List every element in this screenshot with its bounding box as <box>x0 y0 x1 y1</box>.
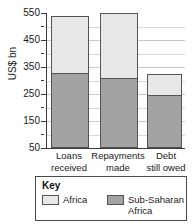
bar-segment-sub-saharan-africa <box>51 73 89 148</box>
legend-swatch-africa <box>42 195 59 205</box>
legend-title: Key <box>42 180 60 191</box>
bar-segment-sub-saharan-africa <box>100 78 138 148</box>
plot-area <box>46 13 185 148</box>
chart-legend: Key Africa Sub-Saharan Africa <box>35 176 187 221</box>
y-tick-mark-minor <box>41 107 44 108</box>
bar-repayments-made <box>100 13 138 148</box>
stacked-bar-chart: US$ bn 550 450 350 250 150 50 <box>0 0 195 224</box>
x-tick-label-repayments-made: Repayments made <box>89 150 147 173</box>
x-axis-baseline <box>46 148 185 150</box>
y-tick-mark-minor <box>41 26 44 27</box>
bar-segment-africa <box>51 16 89 73</box>
y-tick-label: 250 <box>14 89 40 99</box>
x-axis-tick-labels: Loans received Repayments made Debt stil… <box>46 150 185 176</box>
bar-debt-still-owed <box>147 74 182 148</box>
y-tick-mark-minor <box>41 134 44 135</box>
legend-label-sub-saharan-africa-line2: Africa <box>128 205 152 216</box>
x-tick-label-debt-still-owed: Debt still owed <box>142 150 190 173</box>
bar-segment-sub-saharan-africa <box>147 95 182 148</box>
y-tick-label: 550 <box>14 8 40 18</box>
bar-segment-africa <box>147 74 182 95</box>
y-axis-tick-labels: 550 450 350 250 150 50 <box>14 0 40 160</box>
legend-label-africa: Africa <box>63 194 87 205</box>
y-tick-label: 450 <box>14 35 40 45</box>
legend-swatch-sub-saharan-africa <box>107 195 124 205</box>
legend-label-sub-saharan-africa-line1: Sub-Saharan <box>128 194 184 205</box>
y-tick-label: 50 <box>14 143 40 153</box>
bar-loans-received <box>51 16 89 148</box>
x-tick-label-line: made <box>89 162 147 174</box>
bar-segment-africa <box>100 13 138 78</box>
y-tick-mark-minor <box>41 80 44 81</box>
y-tick-mark-minor <box>41 53 44 54</box>
x-tick-label-line: Repayments <box>89 150 147 162</box>
y-tick-label: 350 <box>14 62 40 72</box>
x-tick-label-line: Debt <box>142 150 190 162</box>
x-tick-label-line: still owed <box>142 162 190 174</box>
y-tick-label: 150 <box>14 116 40 126</box>
